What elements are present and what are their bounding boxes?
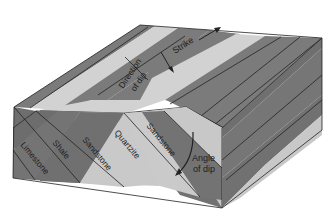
label-angle-of-dip-2: of dip <box>193 164 215 174</box>
block-diagram-svg: Strike Direction of dip Angle of dip Lim… <box>0 0 336 216</box>
label-angle-of-dip-1: Angle <box>192 153 215 163</box>
block-diagram: Strike Direction of dip Angle of dip Lim… <box>0 0 336 216</box>
